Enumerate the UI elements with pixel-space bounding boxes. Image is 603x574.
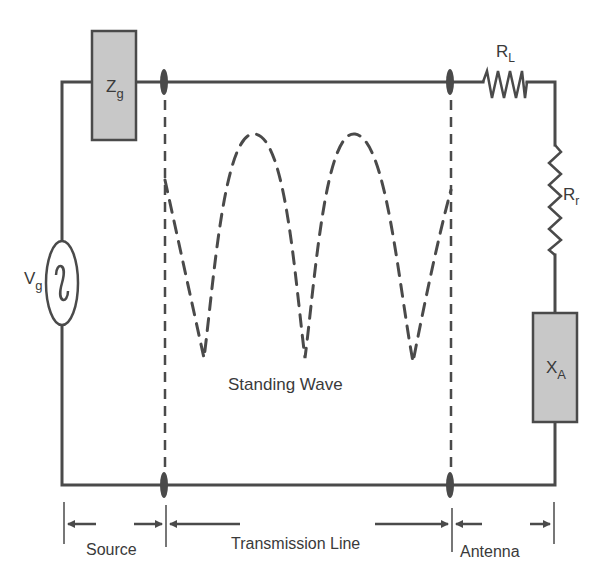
line-terminal-markers <box>160 69 454 498</box>
right-wire-top <box>527 82 555 145</box>
rl-label: RL <box>496 42 515 65</box>
left-wire-top <box>62 82 92 240</box>
radiation-resistor-rr: Rr <box>549 145 579 255</box>
node-marker-source-top <box>160 69 168 95</box>
node-marker-antenna-bottom <box>446 472 454 498</box>
antenna-reactance-xa: XA <box>533 313 577 422</box>
vg-label: Vg <box>24 269 43 293</box>
section-label-antenna: Antenna <box>460 543 520 560</box>
section-label-source: Source <box>86 541 137 558</box>
voltage-source-vg: Vg <box>24 241 78 325</box>
loss-resistor-rl: RL <box>483 42 527 98</box>
node-marker-antenna-top <box>446 69 454 95</box>
left-wire-bottom <box>62 325 555 485</box>
node-marker-source-bottom <box>160 472 168 498</box>
rr-label: Rr <box>563 185 579 208</box>
antenna-circuit-diagram: Zg Vg RL Rr XA Standing Wave <box>0 0 603 574</box>
standing-wave-curve <box>165 134 451 362</box>
circuit-wires <box>62 82 555 485</box>
source-impedance-zg: Zg <box>92 31 136 140</box>
standing-wave-label: Standing Wave <box>228 375 343 394</box>
section-label-transmission-line: Transmission Line <box>231 535 360 552</box>
line-boundaries <box>165 100 451 470</box>
